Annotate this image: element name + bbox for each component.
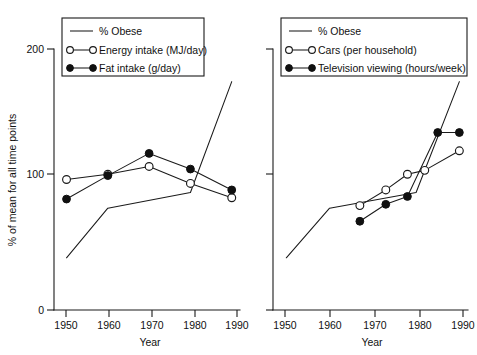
data-point-marker <box>104 172 112 180</box>
right-legend-label-0: % Obese <box>318 25 361 37</box>
legend-open-circle-icon <box>67 47 74 54</box>
left-x-tick-1970: 1970 <box>140 319 164 331</box>
panel-left: 200 100 0 % of mean for all time points … <box>6 18 249 348</box>
left-x-tick-1980: 1980 <box>183 319 207 331</box>
panel-right: 1950 1960 1970 1980 1990 Year <box>266 18 475 348</box>
right-x-tick-1950: 1950 <box>273 319 297 331</box>
data-point-marker <box>187 180 195 188</box>
legend-filled-circle-icon <box>67 65 74 72</box>
data-point-marker <box>455 129 463 137</box>
right-legend-label-2: Television viewing (hours/week) <box>318 62 466 74</box>
right-y-axis <box>266 49 273 310</box>
data-point-marker <box>382 186 390 194</box>
left-x-tick-1950: 1950 <box>54 319 78 331</box>
data-point-marker <box>404 170 412 178</box>
left-legend-label-1: Energy intake (MJ/day) <box>99 44 207 56</box>
right-x-tick-1960: 1960 <box>318 319 342 331</box>
figure-root: 200 100 0 % of mean for all time points … <box>0 0 477 355</box>
data-point-marker <box>63 176 71 184</box>
data-point-marker <box>434 129 442 137</box>
right-legend: % Obese Cars (per household) Television … <box>281 18 467 76</box>
data-point-marker <box>228 186 236 194</box>
left-legend-label-0: % Obese <box>99 25 142 37</box>
right-x-tick-1970: 1970 <box>363 319 387 331</box>
left-x-axis: 1950 1960 1970 1980 1990 Year <box>54 310 249 348</box>
right-series-obese <box>286 82 459 258</box>
data-point-marker <box>145 150 153 158</box>
data-point-marker <box>455 147 463 155</box>
right-legend-label-1: Cars (per household) <box>318 44 417 56</box>
right-x-tick-1980: 1980 <box>408 319 432 331</box>
right-x-axis-title: Year <box>361 336 383 348</box>
left-series-energy <box>63 163 236 202</box>
data-point-marker <box>421 166 429 174</box>
two-panel-chart: 200 100 0 % of mean for all time points … <box>0 0 477 355</box>
data-point-marker <box>356 217 364 225</box>
legend-filled-circle-icon <box>90 65 97 72</box>
data-point-marker <box>404 193 412 201</box>
y-axis-title: % of mean for all time points <box>6 114 18 246</box>
right-x-tick-1990: 1990 <box>451 319 475 331</box>
left-y-tick-200: 200 <box>26 43 44 55</box>
left-x-axis-title: Year <box>139 336 161 348</box>
left-y-axis: 200 100 0 % of mean for all time points <box>6 43 54 316</box>
data-point-marker <box>63 195 71 203</box>
data-point-marker <box>356 202 364 210</box>
left-y-tick-0: 0 <box>38 304 44 316</box>
data-point-marker <box>145 163 153 171</box>
legend-open-circle-icon <box>286 47 293 54</box>
data-point-marker <box>382 200 390 208</box>
legend-filled-circle-icon <box>286 65 293 72</box>
legend-open-circle-icon <box>90 47 97 54</box>
data-point-marker <box>228 194 236 202</box>
legend-filled-circle-icon <box>309 65 316 72</box>
right-x-axis: 1950 1960 1970 1980 1990 Year <box>273 310 475 348</box>
data-point-marker <box>187 165 195 173</box>
left-legend-label-2: Fat intake (g/day) <box>99 62 181 74</box>
left-legend: % Obese Energy intake (MJ/day) Fat intak… <box>62 18 207 76</box>
left-y-tick-100: 100 <box>26 168 44 180</box>
left-x-tick-1960: 1960 <box>97 319 121 331</box>
figure-header-faint-text <box>0 0 477 14</box>
left-x-tick-1990: 1990 <box>225 319 249 331</box>
legend-open-circle-icon <box>309 47 316 54</box>
